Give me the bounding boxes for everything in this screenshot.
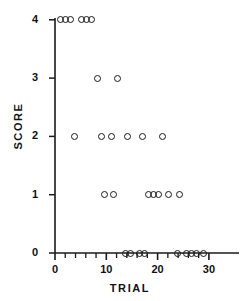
y-axis-title: SCORE bbox=[12, 96, 24, 156]
data-point bbox=[174, 250, 181, 257]
data-point bbox=[98, 133, 105, 140]
y-axis-ticks bbox=[49, 20, 55, 253]
data-point bbox=[71, 133, 78, 140]
x-tick-label: 0 bbox=[45, 263, 65, 275]
data-point bbox=[127, 250, 134, 257]
x-tick-label: 30 bbox=[199, 263, 219, 275]
y-tick-label: 3 bbox=[27, 71, 43, 83]
y-tick-label: 2 bbox=[27, 129, 43, 141]
x-tick-label: 20 bbox=[148, 263, 168, 275]
data-point bbox=[94, 75, 101, 82]
data-point bbox=[141, 250, 148, 257]
data-point bbox=[193, 250, 200, 257]
data-point bbox=[200, 250, 207, 257]
y-tick-label: 0 bbox=[27, 246, 43, 258]
data-point bbox=[139, 133, 146, 140]
figure-caption bbox=[6, 293, 242, 301]
x-tick-label: 10 bbox=[96, 263, 116, 275]
y-tick-label: 1 bbox=[27, 188, 43, 200]
scatter-plot-figure: SCORE TRIAL 01234 0102030 bbox=[0, 0, 247, 301]
data-point bbox=[114, 75, 121, 82]
data-point bbox=[101, 191, 108, 198]
y-tick-label: 4 bbox=[27, 13, 43, 25]
data-point bbox=[108, 133, 115, 140]
data-point bbox=[176, 191, 183, 198]
axis-lines bbox=[55, 18, 239, 253]
